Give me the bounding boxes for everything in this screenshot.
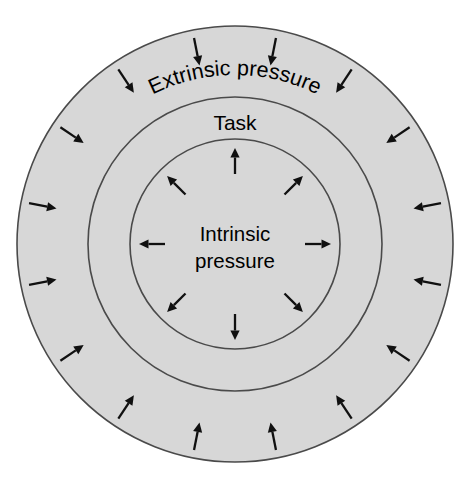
concentric-pressure-diagram: Extrinsic pressure Task Intrinsic pressu… xyxy=(0,0,470,482)
intrinsic-pressure-label-line2: pressure xyxy=(195,249,275,272)
intrinsic-pressure-label-line1: Intrinsic xyxy=(200,222,271,245)
diagram-canvas: Extrinsic pressure Task Intrinsic pressu… xyxy=(0,0,470,482)
task-label: Task xyxy=(213,111,257,134)
